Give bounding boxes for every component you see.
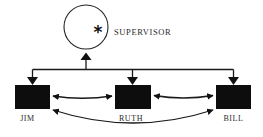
upward-connector [81, 53, 92, 71]
drop-to-ruth [127, 70, 138, 86]
ruth-box [115, 85, 151, 109]
supervisor-team-diagram: * SUPERVISOR JIM RUTH BILL [0, 0, 263, 137]
up-arrowhead-icon [81, 53, 92, 61]
down-arrowhead-icon [27, 77, 38, 85]
jim-label: JIM [20, 114, 35, 123]
down-arrowhead-icon [127, 77, 138, 85]
down-arrowhead-icon [228, 77, 239, 85]
ruth-label: RUTH [119, 114, 143, 123]
supervisor-node: * SUPERVISOR [64, 5, 171, 49]
jim-ruth-arrow [53, 96, 112, 98]
bill-box [216, 85, 251, 109]
jim-box [15, 85, 50, 109]
drop-to-bill [228, 70, 239, 86]
drop-to-jim [27, 70, 38, 86]
supervisor-label: SUPERVISOR [114, 27, 171, 37]
bill-label: BILL [223, 114, 243, 123]
ruth-bill-arrow [154, 96, 213, 99]
supervisor-asterisk-icon: * [94, 22, 103, 42]
